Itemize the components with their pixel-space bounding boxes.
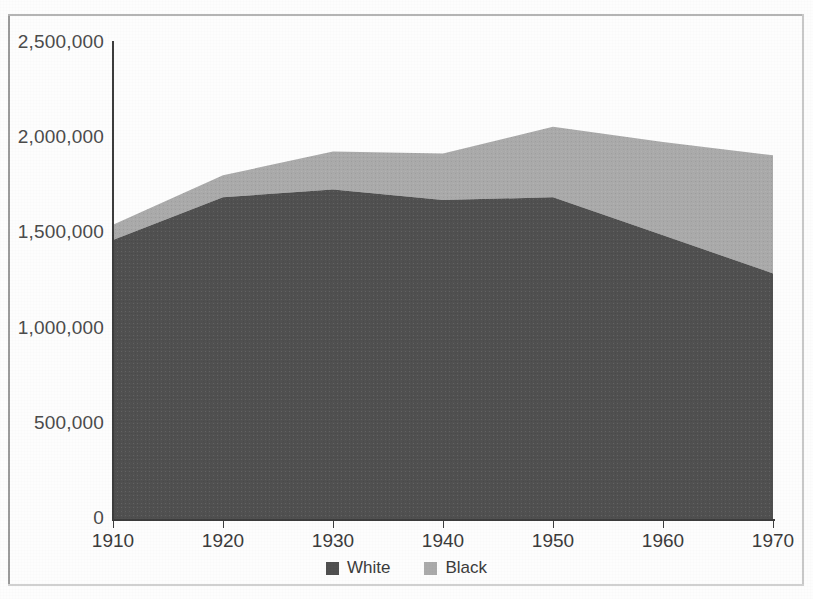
x-axis-tick-mark xyxy=(663,521,664,528)
legend-label: White xyxy=(347,558,390,578)
x-axis-tick-label: 1940 xyxy=(422,530,464,552)
figure-border-bottom xyxy=(8,584,804,586)
x-axis-tick-label: 1970 xyxy=(752,530,794,552)
legend-label: Black xyxy=(445,558,487,578)
chart-figure: 2,500,0002,000,0001,500,0001,000,000500,… xyxy=(0,0,813,599)
legend-item-white[interactable]: White xyxy=(326,558,390,578)
y-axis-tick-label: 1,000,000 xyxy=(8,317,104,339)
x-axis-tick-label: 1920 xyxy=(202,530,244,552)
x-axis-tick-mark xyxy=(223,521,224,528)
legend-swatch-icon xyxy=(424,562,437,575)
chart-legend: WhiteBlack xyxy=(0,558,813,578)
figure-border-top xyxy=(8,14,804,16)
figure-border-left xyxy=(8,14,10,586)
y-axis-tick-label: 2,500,000 xyxy=(8,31,104,53)
y-axis-line xyxy=(112,41,114,521)
x-axis-tick-label: 1950 xyxy=(532,530,574,552)
x-axis-tick-label: 1910 xyxy=(92,530,134,552)
x-axis-tick-mark xyxy=(113,521,114,528)
legend-item-black[interactable]: Black xyxy=(424,558,487,578)
stacked-area-svg xyxy=(113,43,773,519)
x-axis-tick-label: 1930 xyxy=(312,530,354,552)
y-axis-tick-label: 2,000,000 xyxy=(8,126,104,148)
x-axis-tick-mark xyxy=(333,521,334,528)
plot-area xyxy=(113,43,773,519)
x-axis-tick-label: 1960 xyxy=(642,530,684,552)
y-axis-tick-label: 1,500,000 xyxy=(8,221,104,243)
figure-border-right xyxy=(802,14,804,586)
y-axis-tick-label: 0 xyxy=(8,507,104,529)
x-axis-tick-mark xyxy=(553,521,554,528)
legend-swatch-icon xyxy=(326,562,339,575)
x-axis-tick-mark xyxy=(443,521,444,528)
y-axis-tick-label: 500,000 xyxy=(8,412,104,434)
x-axis-tick-mark xyxy=(773,521,774,528)
